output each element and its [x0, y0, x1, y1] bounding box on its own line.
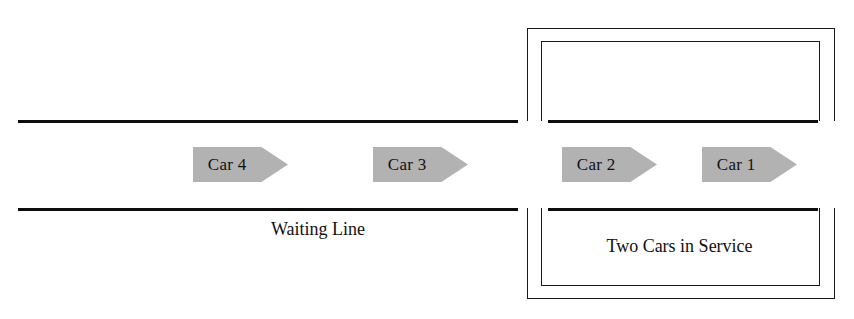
car-arrow-1-label: Car 1 — [702, 156, 770, 173]
car-arrow-1: Car 1 — [702, 147, 797, 182]
car-arrow-4: Car 4 — [193, 147, 288, 182]
roadway-bottom-line-left-segment — [18, 208, 518, 211]
roadway-bottom-line-right-segment — [548, 208, 818, 211]
car-arrow-3: Car 3 — [373, 147, 468, 182]
car-arrow-2-label: Car 2 — [562, 156, 630, 173]
car-arrow-3-label: Car 3 — [373, 156, 441, 173]
queue-diagram-canvas: Car 4 Car 3 Car 2 Car 1 Waiting Line Two… — [0, 0, 854, 319]
roadway-top-line-left-segment — [18, 120, 518, 123]
waiting-line-label: Waiting Line — [18, 220, 618, 238]
roadway-top-line-right-segment — [548, 120, 818, 123]
service-bay-inner-bracket-top — [541, 41, 820, 121]
car-arrow-4-label: Car 4 — [193, 156, 261, 173]
service-area-label: Two Cars in Service — [541, 237, 818, 255]
car-arrow-2: Car 2 — [562, 147, 657, 182]
